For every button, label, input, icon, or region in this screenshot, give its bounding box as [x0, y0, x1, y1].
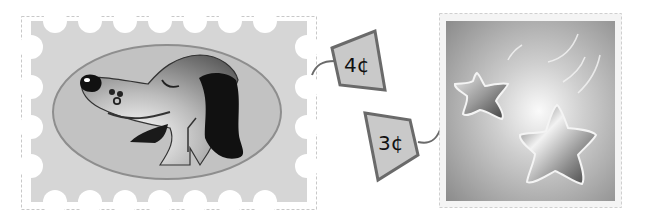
price-tag-3c: 3¢	[365, 113, 440, 180]
dog-stamp	[19, 9, 319, 214]
price-tag-4c: 4¢	[312, 31, 385, 90]
stamps-illustration: 4¢ 3¢	[0, 0, 646, 220]
tag-label-3c: 3¢	[378, 131, 403, 155]
tag-label-4c: 4¢	[344, 53, 369, 77]
dog-nose-icon	[80, 75, 102, 92]
tag-string	[418, 130, 440, 143]
star-stamp	[440, 14, 622, 208]
